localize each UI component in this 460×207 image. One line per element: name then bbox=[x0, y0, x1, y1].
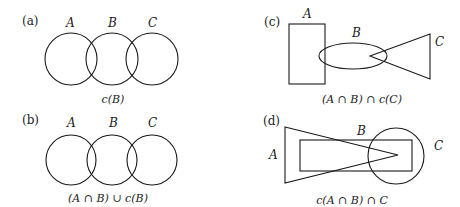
panel-d: (d) A B C c(A ∩ B) ∩ C bbox=[263, 114, 443, 207]
panel-c-caption: (A ∩ B) ∩ c(C) bbox=[322, 93, 402, 106]
set-c-label: C bbox=[148, 116, 157, 130]
venn-diagram-figure: (a) A B C c(B) (b) A B C (A ∩ B) ∪ c(B) … bbox=[0, 0, 460, 207]
set-b-label: B bbox=[107, 16, 117, 30]
set-b-circle bbox=[87, 135, 137, 185]
panel-a-caption: c(B) bbox=[102, 93, 125, 106]
set-c-triangle bbox=[370, 34, 430, 79]
set-c-label: C bbox=[148, 16, 157, 30]
panel-c-label: (c) bbox=[264, 15, 280, 29]
set-a-label: A bbox=[65, 16, 75, 30]
set-a-circle bbox=[45, 33, 97, 85]
set-a-label: A bbox=[302, 7, 312, 21]
panel-d-label: (d) bbox=[263, 114, 280, 128]
set-c-label: C bbox=[434, 139, 443, 153]
panel-c: (c) A B C (A ∩ B) ∩ c(C) bbox=[264, 7, 444, 106]
panel-b-label: (b) bbox=[22, 113, 39, 127]
set-b-label: B bbox=[108, 116, 118, 130]
panel-b-caption: (A ∩ B) ∪ c(B) bbox=[68, 192, 148, 205]
panel-d-caption: c(A ∩ B) ∩ C bbox=[316, 194, 388, 207]
panel-a-label: (a) bbox=[22, 14, 39, 28]
set-b-label: B bbox=[351, 26, 361, 40]
set-a-triangle bbox=[285, 127, 398, 183]
panel-a: (a) A B C c(B) bbox=[22, 14, 178, 106]
set-b-ellipse bbox=[319, 43, 387, 69]
set-a-label: A bbox=[268, 148, 278, 162]
panel-b: (b) A B C (A ∩ B) ∪ c(B) bbox=[22, 113, 177, 205]
set-a-circle bbox=[46, 135, 96, 185]
set-c-circle bbox=[127, 135, 177, 185]
set-b-circle bbox=[86, 33, 138, 85]
set-c-label: C bbox=[435, 35, 444, 49]
set-a-label: A bbox=[66, 116, 76, 130]
set-b-label: B bbox=[356, 124, 366, 138]
set-c-circle bbox=[126, 33, 178, 85]
